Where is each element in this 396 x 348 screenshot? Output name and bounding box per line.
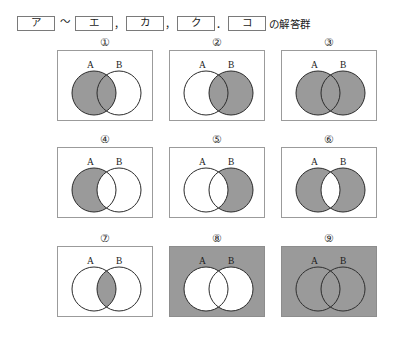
- venn-options-grid: ①AB②AB③AB④AB⑤AB⑥AB⑦AB⑧AB⑨AB: [57, 36, 377, 336]
- venn-frame-2: AB: [169, 50, 265, 121]
- venn-option-number-3: ③: [281, 36, 377, 50]
- venn-option-number-6: ⑥: [281, 133, 377, 147]
- token-box-3: カ: [126, 16, 164, 31]
- set-b-label: B: [228, 61, 234, 71]
- venn-frame-3: AB: [281, 50, 377, 121]
- set-a-label: A: [87, 257, 94, 267]
- venn-shapes-4: [58, 148, 153, 218]
- set-a-label: A: [199, 257, 206, 267]
- comma-separator-1: ，: [113, 20, 126, 31]
- set-b-label: B: [340, 61, 346, 71]
- venn-shapes-6: [282, 148, 377, 218]
- venn-option-1[interactable]: ①AB: [57, 36, 153, 121]
- venn-option-number-4: ④: [57, 133, 153, 147]
- set-a-label: A: [311, 158, 318, 168]
- token-box-2: エ: [75, 16, 113, 31]
- venn-option-6[interactable]: ⑥AB: [281, 133, 377, 218]
- venn-shapes-8: [170, 247, 265, 317]
- venn-option-8[interactable]: ⑧AB: [169, 232, 265, 317]
- venn-option-9[interactable]: ⑨AB: [281, 232, 377, 317]
- range-tilde-separator: ～: [55, 17, 75, 28]
- token-box-1: ア: [17, 16, 55, 31]
- venn-option-5[interactable]: ⑤AB: [169, 133, 265, 218]
- venn-shapes-1: [58, 51, 153, 121]
- venn-frame-4: AB: [57, 147, 153, 218]
- set-b-label: B: [116, 158, 122, 168]
- set-a-label: A: [87, 61, 94, 71]
- venn-option-4[interactable]: ④AB: [57, 133, 153, 218]
- set-a-label: A: [199, 61, 206, 71]
- venn-option-3[interactable]: ③AB: [281, 36, 377, 121]
- venn-option-number-5: ⑤: [169, 133, 265, 147]
- set-a-label: A: [311, 257, 318, 267]
- venn-frame-9: AB: [281, 246, 377, 317]
- comma-separator-2: ，: [164, 20, 177, 31]
- venn-shapes-7: [58, 247, 153, 317]
- venn-option-number-8: ⑧: [169, 232, 265, 246]
- venn-shapes-9: [282, 247, 377, 317]
- venn-shapes-3: [282, 51, 377, 121]
- venn-frame-7: AB: [57, 246, 153, 317]
- token-box-4: ク: [177, 16, 215, 31]
- set-b-label: B: [340, 257, 346, 267]
- comma-separator-3: ．: [215, 20, 228, 31]
- venn-option-7[interactable]: ⑦AB: [57, 232, 153, 317]
- venn-frame-8: AB: [169, 246, 265, 317]
- header-tail-text: の解答群: [266, 16, 310, 31]
- set-a-label: A: [87, 158, 94, 168]
- set-b-label: B: [228, 257, 234, 267]
- set-b-label: B: [228, 158, 234, 168]
- venn-frame-1: AB: [57, 50, 153, 121]
- venn-shapes-2: [170, 51, 265, 121]
- set-b-label: B: [116, 61, 122, 71]
- venn-frame-6: AB: [281, 147, 377, 218]
- venn-option-number-9: ⑨: [281, 232, 377, 246]
- set-a-label: A: [311, 61, 318, 71]
- token-box-5: コ: [228, 16, 266, 31]
- answer-choice-header: ア ～ エ ， カ ， ク ． コ の解答群: [17, 14, 310, 32]
- venn-option-number-2: ②: [169, 36, 265, 50]
- venn-option-2[interactable]: ②AB: [169, 36, 265, 121]
- venn-frame-5: AB: [169, 147, 265, 218]
- set-b-label: B: [340, 158, 346, 168]
- venn-option-number-1: ①: [57, 36, 153, 50]
- venn-shapes-5: [170, 148, 265, 218]
- set-b-label: B: [116, 257, 122, 267]
- set-a-label: A: [199, 158, 206, 168]
- venn-option-number-7: ⑦: [57, 232, 153, 246]
